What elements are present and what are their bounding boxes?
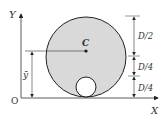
centroid-label: C [82,38,90,48]
x-axis-label: X [150,105,159,116]
dimension-label-d4-lower: D/4 [137,83,153,93]
origin-label: O [11,96,18,106]
centroid-diagram: Y X O C ȳ D/2 D/4 D/4 [0,0,165,118]
dimension-label-d2: D/2 [137,31,153,41]
hole-circle [76,77,96,97]
ybar-label: ȳ [22,70,29,80]
diagram-canvas: Y X O C ȳ D/2 D/4 D/4 [0,0,165,118]
dimension-label-d4-upper: D/4 [137,62,153,72]
y-axis-label: Y [9,9,17,20]
